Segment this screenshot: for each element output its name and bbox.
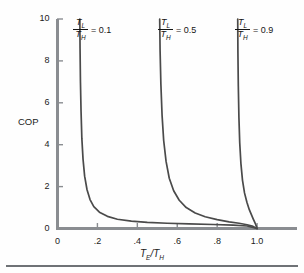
fraction-denominator: TH xyxy=(74,30,86,41)
curve-0-5 xyxy=(160,19,257,229)
curve-annotation-0-5: TL TH = 0.5 xyxy=(158,18,196,42)
y-tick-label: 4 xyxy=(28,139,50,149)
fraction-tl-th: TL TH xyxy=(235,18,250,42)
y-tick-label: 8 xyxy=(28,55,50,65)
fraction-tl-th: TL TH xyxy=(73,18,88,42)
fraction-numerator: TL xyxy=(160,18,171,29)
x-tick-label: 1.0 xyxy=(244,236,270,246)
annotation-value: = 0.9 xyxy=(253,25,273,35)
y-tick-label: 6 xyxy=(28,97,50,107)
numerator-subscript: L xyxy=(243,22,247,29)
curve-0-9 xyxy=(238,19,257,229)
curve-annotation-0-9: TL TH = 0.9 xyxy=(235,18,273,42)
x-tick-label: .2 xyxy=(84,236,110,246)
x-axis-title-denominator-sub: H xyxy=(159,254,164,261)
fraction-tl-th: TL TH xyxy=(158,18,173,42)
denominator-subscript: H xyxy=(166,34,171,41)
x-tick-label: 0 xyxy=(45,236,71,246)
x-tick-label: .8 xyxy=(204,236,230,246)
y-tick-label: 0 xyxy=(28,223,50,233)
numerator-subscript: L xyxy=(81,22,85,29)
x-tick-label: .6 xyxy=(164,236,190,246)
y-axis-title: COP xyxy=(18,116,39,127)
fraction-numerator: TL xyxy=(237,18,248,29)
data-curves xyxy=(80,19,257,229)
y-tick-label: 2 xyxy=(28,181,50,191)
bottom-divider-rule xyxy=(6,265,298,267)
x-axis-title: TE/TH xyxy=(140,248,164,261)
fraction-numerator: TL xyxy=(75,18,86,29)
x-tick-label: .4 xyxy=(124,236,150,246)
numerator-subscript: L xyxy=(166,22,170,29)
fraction-denominator: TH xyxy=(159,30,171,41)
y-tick-label: 10 xyxy=(28,13,50,23)
denominator-subscript: H xyxy=(243,34,248,41)
curve-annotation-0-1: TL TH = 0.1 xyxy=(73,18,111,42)
figure-container: 0246810 0.2.4.6.81.0 COP TE/TH TL TH = 0… xyxy=(0,0,304,273)
fraction-denominator: TH xyxy=(236,30,248,41)
annotation-value: = 0.5 xyxy=(176,25,196,35)
annotation-value: = 0.1 xyxy=(91,25,111,35)
curve-0-1 xyxy=(80,19,257,229)
denominator-subscript: H xyxy=(81,34,86,41)
